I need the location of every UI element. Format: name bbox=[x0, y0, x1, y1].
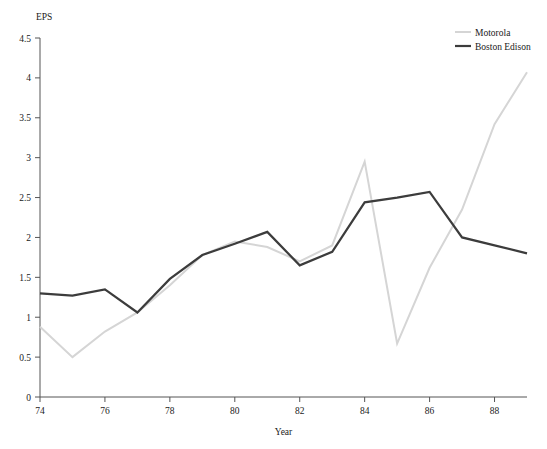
y-tick-label: 4 bbox=[26, 73, 31, 83]
y-tick-label: 3.5 bbox=[19, 113, 31, 123]
x-tick-label: 82 bbox=[295, 406, 305, 416]
eps-line-chart: 00.511.522.533.544.57476788082848688EPSY… bbox=[0, 0, 547, 449]
x-tick-label: 86 bbox=[425, 406, 435, 416]
x-tick-label: 84 bbox=[360, 406, 370, 416]
x-tick-label: 74 bbox=[35, 406, 45, 416]
y-tick-label: 2 bbox=[26, 233, 31, 243]
legend-label-motorola: Motorola bbox=[475, 28, 511, 38]
legend-label-boston-edison: Boston Edison bbox=[475, 42, 531, 52]
y-tick-label: 0 bbox=[26, 393, 31, 403]
chart-container: 00.511.522.533.544.57476788082848688EPSY… bbox=[0, 0, 547, 449]
y-tick-label: 0.5 bbox=[19, 353, 31, 363]
y-axis-label: EPS bbox=[36, 12, 52, 22]
x-tick-label: 76 bbox=[100, 406, 110, 416]
y-tick-label: 3 bbox=[26, 153, 31, 163]
y-tick-label: 1.5 bbox=[19, 273, 31, 283]
y-tick-label: 1 bbox=[26, 313, 31, 323]
y-tick-label: 2.5 bbox=[19, 193, 31, 203]
x-tick-label: 80 bbox=[230, 406, 240, 416]
series-line-motorola bbox=[40, 72, 527, 357]
x-tick-label: 78 bbox=[165, 406, 175, 416]
x-tick-label: 88 bbox=[490, 406, 500, 416]
x-axis-label: Year bbox=[275, 427, 293, 437]
series-line-boston-edison bbox=[40, 192, 527, 312]
y-tick-label: 4.5 bbox=[19, 34, 31, 44]
